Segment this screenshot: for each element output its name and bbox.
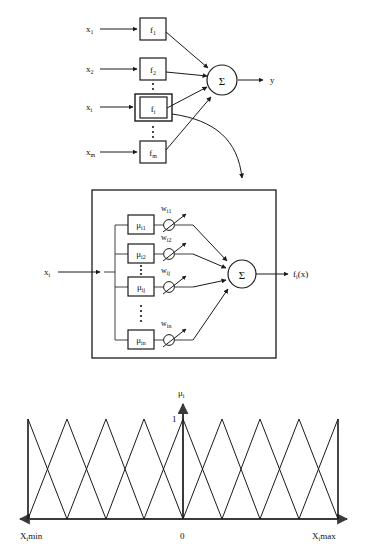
detail-output-label-fi-x: fi(x) bbox=[293, 269, 308, 280]
weight-symbol-w-ij bbox=[164, 282, 175, 293]
mf-7 bbox=[260, 419, 338, 519]
weight-symbol-w-in bbox=[164, 335, 175, 346]
mf-5 bbox=[183, 419, 260, 519]
weight-symbol-w-i2 bbox=[164, 249, 175, 260]
summation-network: x1 x2 xi xm f1 f2 fi bbox=[86, 18, 275, 178]
mf-3 bbox=[106, 419, 183, 519]
fuzzy-neuron-detail: xi μi1 μi2 μij bbox=[44, 190, 308, 358]
sum-node-output-symbol: Σ bbox=[219, 75, 225, 87]
input-arrows bbox=[100, 29, 137, 152]
mf-6 bbox=[222, 419, 299, 519]
input-label-x1: x1 bbox=[86, 24, 94, 35]
vertical-ellipsis-top-2 bbox=[152, 126, 154, 138]
sum-node-detail-symbol: Σ bbox=[239, 269, 245, 281]
figure-canvas: x1 x2 xi xm f1 f2 fi bbox=[0, 0, 367, 558]
function-block-fm bbox=[140, 141, 166, 163]
summation-input-edges bbox=[166, 32, 211, 150]
function-block-f2 bbox=[140, 58, 166, 80]
mf-y-axis-label: μi bbox=[178, 388, 185, 399]
mf-2 bbox=[67, 419, 144, 519]
input-label-xm: xm bbox=[86, 147, 96, 158]
output-label-y: y bbox=[270, 75, 275, 85]
mf-xmin-label: Ximin bbox=[20, 531, 43, 542]
vertical-ellipsis-detail-1 bbox=[140, 265, 142, 275]
mf-xmax-label: Ximax bbox=[312, 531, 336, 542]
mf-1 bbox=[28, 419, 106, 519]
input-label-xi: xi bbox=[86, 102, 93, 113]
neuro-fuzzy-diagram: x1 x2 xi xm f1 f2 fi bbox=[0, 0, 367, 558]
input-label-x2: x2 bbox=[86, 64, 94, 75]
membership-function-plot: Ximin 0 Ximax μi 1 bbox=[20, 388, 347, 542]
function-block-f1 bbox=[140, 18, 166, 40]
detail-input-label-xi: xi bbox=[44, 267, 51, 278]
mf-y-peak-label: 1 bbox=[172, 414, 177, 424]
mf-zero-label: 0 bbox=[180, 531, 185, 541]
vertical-ellipsis-top-1 bbox=[152, 83, 154, 90]
weight-symbol-w-i1 bbox=[164, 220, 175, 231]
detail-expansion-connector bbox=[172, 114, 242, 178]
